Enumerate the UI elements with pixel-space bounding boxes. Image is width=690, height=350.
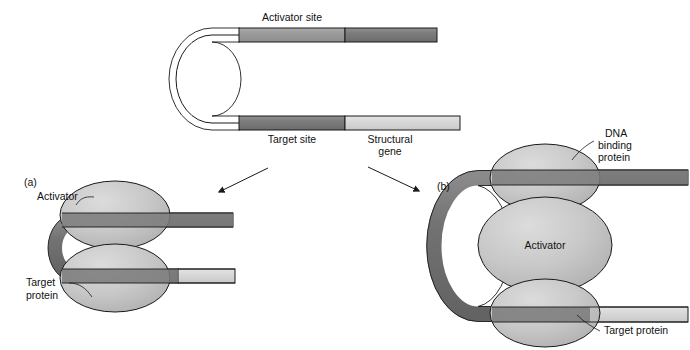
label-activator-site: Activator site — [262, 11, 322, 23]
panel-b-label-dna-binding-line2: binding — [598, 139, 632, 151]
arrow-to-panel-b-line — [368, 167, 419, 191]
arrow-to-panel-a — [219, 168, 268, 192]
panel-b-label-target-protein: Target protein — [604, 324, 668, 336]
dna-loop-overview: Activator site Target site Structural ge… — [169, 11, 460, 157]
panel-a: (a) Activator Target protein — [24, 176, 235, 312]
dna-hairpin-bend-outline — [169, 28, 240, 130]
panel-b-label-activator: Activator — [525, 239, 566, 251]
arrow-to-panel-b — [368, 167, 419, 191]
panel-a-lower-strand-structural — [178, 269, 235, 283]
panel-a-upper-strand-overlay — [62, 213, 233, 227]
dna-hairpin-bend — [176, 35, 240, 123]
panel-b-lower-strand-overlay — [492, 307, 590, 322]
panel-b-label-dna-binding-line1: DNA — [605, 127, 627, 139]
label-structural-gene-line2: gene — [378, 145, 402, 157]
dna-hairpin-bend-inner-outline — [212, 42, 241, 116]
panel-b: (b) DNA binding protein Activator Target… — [427, 127, 688, 347]
panel-a-tag: (a) — [24, 176, 37, 188]
label-target-site: Target site — [268, 133, 317, 145]
panel-a-label-target-protein-line1: Target — [26, 276, 55, 288]
figure-root: Activator site Target site Structural ge… — [0, 0, 690, 350]
panel-b-lower-strand-structural — [590, 307, 688, 322]
arrow-to-panel-a-line — [219, 168, 268, 192]
panel-b-upper-strand-overlay — [492, 170, 688, 185]
segment-upper-right — [345, 28, 437, 42]
segment-activator-site — [239, 28, 345, 42]
panel-a-label-activator: Activator — [37, 190, 78, 202]
panel-b-label-dna-binding-line3: protein — [598, 151, 630, 163]
segment-target-site — [239, 116, 345, 130]
panel-a-lower-strand-overlay — [62, 269, 178, 283]
segment-structural-gene — [345, 116, 460, 130]
panel-a-label-target-protein-line2: protein — [26, 289, 58, 301]
panel-b-tag: (b) — [437, 180, 450, 192]
label-structural-gene-line1: Structural — [368, 133, 413, 145]
